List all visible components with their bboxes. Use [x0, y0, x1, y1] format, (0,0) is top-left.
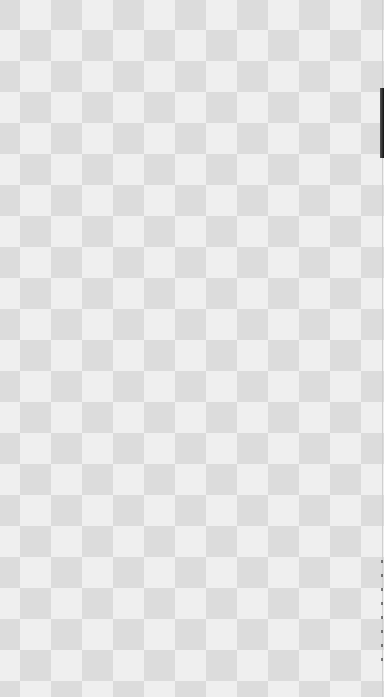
right-edge-shadow: [380, 88, 384, 158]
right-edge-specks: [381, 560, 383, 670]
transparency-checkerboard: [0, 0, 384, 697]
